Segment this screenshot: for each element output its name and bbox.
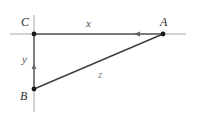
side-label-z: z	[98, 69, 102, 80]
vertex-dot-C	[32, 32, 37, 37]
segment-z-BA	[34, 34, 163, 89]
vertex-label-A: A	[160, 16, 167, 28]
vertex-dot-A	[161, 32, 166, 37]
arrowhead-x-left-icon	[134, 32, 140, 37]
arrowhead-y-up-icon	[32, 63, 37, 69]
side-label-y: y	[22, 54, 27, 65]
figure-canvas	[0, 0, 197, 119]
geometry-figure: C A B x y z	[0, 0, 197, 119]
vertex-label-B: B	[20, 90, 27, 102]
vertex-dot-B	[32, 87, 37, 92]
vertex-label-C: C	[21, 16, 29, 28]
side-label-x: x	[86, 18, 91, 29]
